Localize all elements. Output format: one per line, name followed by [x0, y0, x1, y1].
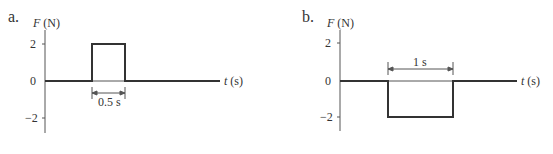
a-x-axis-title: t (s) — [224, 74, 243, 89]
b-ytick-0: 0 — [325, 74, 331, 89]
a-pulse-line — [45, 44, 220, 81]
a-ytick-0: 0 — [30, 74, 36, 89]
b-pulse-line — [340, 81, 517, 117]
a-y-axis-title: F (N) — [33, 16, 60, 31]
b-ytick-neg2: −2 — [320, 110, 333, 125]
b-duration-label: 1 s — [413, 55, 427, 70]
b-x-axis-title: t (s) — [521, 74, 540, 89]
a-ytick-2: 2 — [30, 37, 36, 52]
panel-a-label: a. — [8, 8, 19, 26]
b-ytick-2: 2 — [325, 36, 331, 51]
b-y-axis-title: F (N) — [327, 16, 354, 31]
a-ytick-neg2: −2 — [25, 111, 38, 126]
panel-b-label: b. — [302, 8, 314, 26]
a-duration-label: 0.5 s — [98, 95, 121, 110]
force-graphs — [0, 0, 553, 154]
